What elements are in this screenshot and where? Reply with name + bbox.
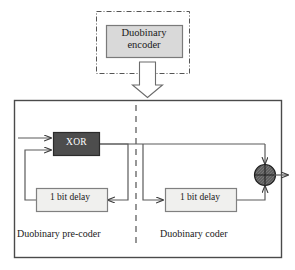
precoder-section-label: Duobinary pre-coder xyxy=(17,228,127,239)
coder-section-label: Duobinary coder xyxy=(160,228,270,239)
encoder-label-line1: Duobinary xyxy=(122,27,167,38)
delay-right-label: 1 bit delay xyxy=(166,192,234,203)
delay-left-label: 1 bit delay xyxy=(36,192,104,203)
wire-right-delay-to-adder xyxy=(237,186,265,200)
duobinary-encoder-label: Duobinary encoder xyxy=(106,27,182,51)
xor-gate-label: XOR xyxy=(53,137,100,148)
encoder-label-line2: encoder xyxy=(127,39,160,50)
down-arrow-icon xyxy=(133,62,163,98)
diagram-canvas: Duobinary encoder XOR 1 bit delay 1 bit … xyxy=(0,0,295,270)
wire-trunk-to-right-delay xyxy=(143,144,163,200)
